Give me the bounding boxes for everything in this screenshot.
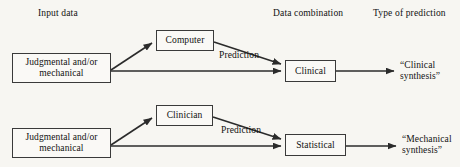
- node-clinical-label: Clinical: [295, 66, 326, 77]
- outcome-clinical-line2: synthesis”: [400, 71, 440, 81]
- outcome-mechanical-synthesis: “Mechanical synthesis”: [402, 134, 452, 157]
- edge-label-prediction-bottom: Prediction: [221, 125, 261, 135]
- node-clinician: Clinician: [156, 105, 213, 126]
- column-heading-data-combination: Data combination: [273, 8, 343, 18]
- outcome-mechanical-line2: synthesis”: [402, 145, 442, 155]
- node-clinician-label: Clinician: [167, 110, 203, 121]
- column-heading-input-data: Input data: [38, 8, 78, 18]
- node-input-line1-bottom: Judgmental and/or: [25, 132, 97, 142]
- node-computer-label: Computer: [166, 35, 205, 46]
- outcome-mechanical-line1: “Mechanical: [402, 134, 452, 144]
- outcome-clinical-line1: “Clinical: [400, 60, 435, 70]
- edge-input-to-computer: [111, 43, 152, 70]
- edge-input-to-clinician: [111, 118, 152, 145]
- node-input-line2-bottom: mechanical: [39, 143, 83, 153]
- node-input-judgmental-mechanical-top: Judgmental and/or mechanical: [12, 53, 111, 83]
- node-computer: Computer: [156, 30, 214, 51]
- column-heading-type-of-prediction: Type of prediction: [373, 8, 446, 18]
- node-statistical: Statistical: [285, 134, 346, 156]
- node-statistical-label: Statistical: [296, 140, 335, 151]
- diagram-canvas: Input data Data combination Type of pred…: [0, 0, 460, 167]
- node-input-line2: mechanical: [39, 68, 83, 78]
- edge-label-prediction-top: Prediction: [219, 50, 259, 60]
- outcome-clinical-synthesis: “Clinical synthesis”: [400, 60, 440, 83]
- node-input-line1: Judgmental and/or: [25, 57, 97, 67]
- node-input-judgmental-mechanical-bottom: Judgmental and/or mechanical: [12, 128, 111, 158]
- node-clinical: Clinical: [285, 60, 336, 82]
